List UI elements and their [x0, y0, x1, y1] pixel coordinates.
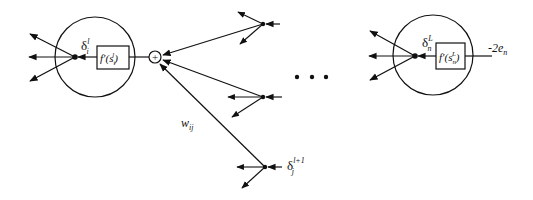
- ellipsis-dot-1: [295, 75, 299, 79]
- backprop-diagram: δli f′(sil) + δl+1j wij: [0, 0, 533, 200]
- neuron-circle-right: [393, 15, 473, 95]
- ellipsis: [295, 75, 328, 79]
- fanout-arrow-down-right: [370, 56, 415, 80]
- fanout-arrow-top-up: [238, 12, 263, 24]
- plus-icon: +: [152, 51, 158, 63]
- ellipsis-dot-3: [324, 75, 328, 79]
- fanout-arrow-down-left: [30, 57, 75, 81]
- right-neuron: δLn f′(snL) -2en: [369, 15, 507, 95]
- derivative-label-right: f′(snL): [439, 50, 460, 66]
- left-neuron: δli f′(sil): [29, 17, 149, 97]
- weighted-input-top: [163, 24, 263, 55]
- weighted-input-middle: [163, 60, 263, 97]
- derivative-label-left: f′(sil): [100, 51, 118, 67]
- ellipsis-dot-2: [310, 75, 314, 79]
- junction-middle: [228, 95, 282, 117]
- delta-label-left: δli: [81, 37, 90, 56]
- delta-label-bottom: δl+1j: [287, 156, 305, 176]
- delta-label-right: δLn: [422, 34, 433, 53]
- weighted-input-bottom: [160, 64, 265, 167]
- weight-label: wij: [181, 116, 194, 132]
- fanout-arrow-bottom-down: [242, 167, 265, 188]
- output-error-label: -2en: [488, 41, 507, 57]
- junction-top: [238, 12, 280, 44]
- fanout-arrow-up-left: [30, 34, 75, 57]
- fanout-arrow-middle-down: [232, 97, 263, 117]
- summation-node: +: [149, 51, 161, 63]
- junction-bottom: δl+1j: [237, 156, 305, 188]
